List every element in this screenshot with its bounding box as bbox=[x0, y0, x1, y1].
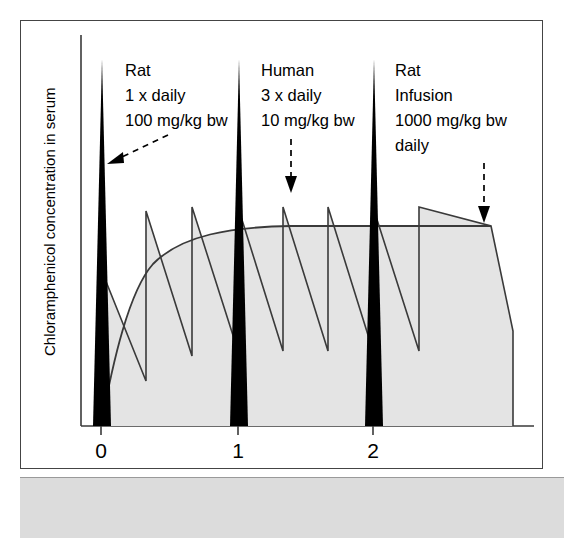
dashed-arrow-down-icon-2 bbox=[478, 163, 490, 223]
annotation-rat-daily: Rat 1 x daily 100 mg/kg bw bbox=[107, 61, 228, 164]
pharmacokinetic-chart: 0 1 2 Rat 1 x daily 100 mg/kg bw Human 3… bbox=[21, 21, 542, 468]
annotation-rat-daily-line1: Rat bbox=[125, 61, 151, 79]
x-tick-label-1: 1 bbox=[232, 439, 244, 462]
annotation-rat-daily-line3: 100 mg/kg bw bbox=[125, 111, 228, 129]
annotation-rat-infusion-line2: Infusion bbox=[395, 86, 453, 104]
annotation-human-daily-line2: 3 x daily bbox=[261, 86, 322, 104]
x-tick-label-2: 2 bbox=[367, 439, 379, 462]
figure-frame: 0 1 2 Rat 1 x daily 100 mg/kg bw Human 3… bbox=[20, 20, 543, 469]
x-tick-label-0: 0 bbox=[95, 439, 107, 462]
annotation-rat-infusion-line1: Rat bbox=[395, 61, 421, 79]
bottom-gray-bar bbox=[20, 477, 564, 538]
annotation-human-daily: Human 3 x daily 10 mg/kg bw bbox=[261, 61, 355, 193]
dashed-arrow-down-left-icon bbox=[107, 135, 168, 164]
annotation-rat-infusion: Rat Infusion 1000 mg/kg bw daily bbox=[395, 61, 507, 223]
dashed-arrow-down-icon bbox=[285, 139, 297, 193]
annotation-rat-infusion-line4: daily bbox=[395, 136, 430, 154]
annotation-rat-daily-line2: 1 x daily bbox=[125, 86, 186, 104]
y-axis-title: Chloramphenicol concentration in serum bbox=[41, 88, 58, 356]
series-rat-daily-spike-day0 bbox=[93, 59, 111, 426]
annotation-human-daily-line1: Human bbox=[261, 61, 314, 79]
annotation-rat-infusion-line3: 1000 mg/kg bw bbox=[395, 111, 507, 129]
annotation-human-daily-line3: 10 mg/kg bw bbox=[261, 111, 355, 129]
